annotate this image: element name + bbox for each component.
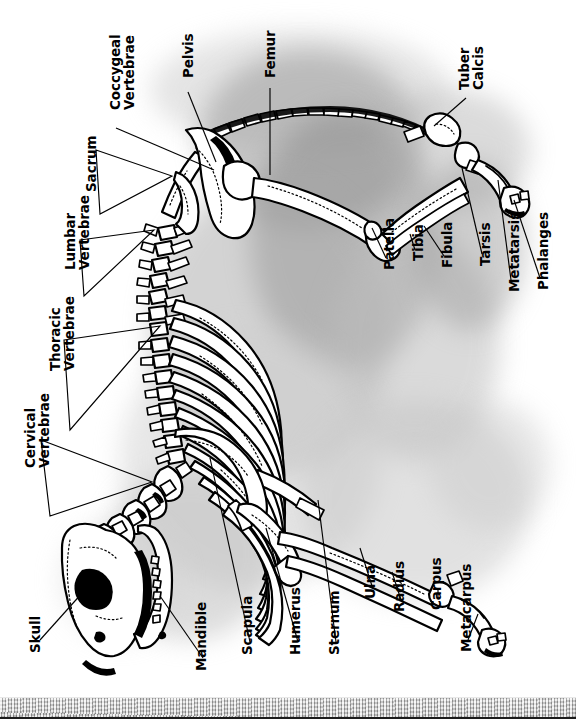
- front-phalanges-bones: [478, 629, 506, 657]
- label-cervical-vertebrae: Cervical Vertebrae: [23, 393, 51, 468]
- label-humerus: Humerus: [289, 587, 303, 655]
- skull-bone: [62, 524, 146, 676]
- label-mandible: Mandible: [195, 602, 209, 671]
- label-fibula: Fibula: [441, 222, 455, 268]
- lumbar-vertebrae-bones: [137, 222, 195, 336]
- label-tarsis: Tarsis: [479, 223, 493, 266]
- ground-strip: [0, 697, 576, 719]
- label-patella: Patella: [383, 218, 397, 270]
- label-sternum: Sternum: [328, 590, 342, 655]
- label-radius: Radius: [393, 561, 407, 612]
- label-lumbar-vertebrae: Lumbar Vertebrae: [63, 195, 91, 270]
- label-skull: Skull: [29, 616, 43, 653]
- skeleton-diagram-page: .bone{fill:#fff;stroke:#000;stroke-width…: [0, 0, 576, 723]
- label-phalanges: Phalanges: [537, 212, 551, 290]
- label-femur: Femur: [264, 30, 278, 78]
- tuber-calcis-bone: [404, 113, 460, 146]
- label-metacarpus: Metacarpus: [460, 564, 474, 652]
- label-pelvis: Pelvis: [182, 33, 196, 78]
- label-thoracic-vertebrae: Thoracic Vertebrae: [48, 296, 76, 371]
- label-sacrum: Sacrum: [85, 135, 99, 192]
- label-tibia: Tibia: [412, 224, 426, 261]
- label-metatarsis: Metatarsis: [508, 212, 522, 292]
- label-ulna: Ulna: [364, 565, 378, 599]
- label-tuber-calcis: Tuber Calcis: [457, 46, 485, 90]
- label-scapula: Scapula: [241, 596, 255, 655]
- label-carpus: Carpus: [430, 558, 444, 610]
- label-coccygeal-vertebrae: Coccygeal Vertebrae: [108, 34, 136, 110]
